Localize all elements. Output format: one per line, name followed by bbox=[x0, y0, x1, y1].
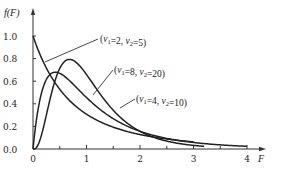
y-tick-label: 0.2 bbox=[3, 122, 17, 132]
annotation-leader-line bbox=[45, 39, 98, 62]
y-tick-label: 0.4 bbox=[3, 99, 18, 109]
y-ticks: 0.00.20.40.60.81.0 bbox=[3, 32, 36, 155]
y-axis: f(F) 0.00.20.40.60.81.0 bbox=[3, 7, 36, 155]
x-tick-label: 2 bbox=[137, 154, 143, 164]
x-tick-label: 3 bbox=[191, 154, 197, 164]
y-tick-label: 0.0 bbox=[3, 145, 18, 155]
y-axis-arrow-icon bbox=[31, 8, 35, 15]
x-tick-label: 4 bbox=[244, 154, 250, 164]
x-tick-label: 1 bbox=[84, 154, 90, 164]
curve-nu1-4-nu2-10 bbox=[33, 72, 247, 149]
annotation-label: (ν1=8, ν2=20) bbox=[114, 65, 165, 80]
x-tick-label: 0 bbox=[30, 154, 36, 164]
y-axis-title: f(F) bbox=[4, 7, 20, 19]
y-tick-label: 0.6 bbox=[3, 77, 18, 87]
f-distribution-chart: f(F) 0.00.20.40.60.81.0 F 01234 (ν1=2, ν… bbox=[0, 0, 283, 174]
annotation-label: (ν1=2, ν2=5) bbox=[100, 34, 146, 49]
annotation-label: (ν1=4, ν2=10) bbox=[136, 94, 187, 109]
y-tick-label: 1.0 bbox=[3, 32, 18, 42]
x-axis-arrow-icon bbox=[259, 147, 266, 151]
annotation-leader-line bbox=[93, 70, 113, 95]
curve-nu1-2-nu2-5 bbox=[33, 36, 194, 142]
x-ticks: 01234 bbox=[30, 145, 250, 164]
x-axis-title: F bbox=[257, 153, 265, 164]
y-tick-label: 0.8 bbox=[3, 54, 18, 64]
x-axis: F 01234 bbox=[30, 145, 266, 164]
annotation-leader-line bbox=[120, 99, 135, 108]
